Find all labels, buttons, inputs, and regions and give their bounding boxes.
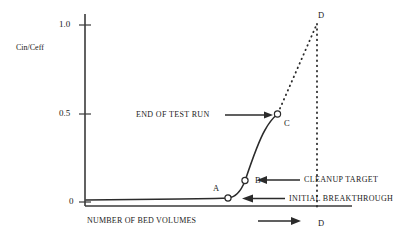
annotation-cleanup-target: CLEANUP TARGET: [304, 176, 378, 184]
y-tick-label-0_5: 0.5: [59, 109, 70, 118]
data-point-a-marker: [225, 195, 231, 201]
data-point-c-marker: [274, 111, 280, 117]
axis-label-d: D: [318, 219, 324, 228]
data-point-label-c: C: [284, 119, 290, 128]
annotation-end-of-test-run: END OF TEST RUN: [136, 111, 210, 119]
initial-breakthrough-arrow: [242, 194, 285, 202]
data-point-b-marker: [242, 177, 248, 183]
end-of-test-run-arrow: [225, 111, 273, 118]
breakthrough-curve-chart: Cin/Ceff 1.0 0.5 0 A B C D D END OF TEST…: [0, 0, 411, 238]
y-axis-title: Cin/Ceff: [16, 44, 44, 52]
data-point-label-b: B: [255, 176, 261, 185]
extrapolation-dotted-line: [278, 26, 316, 113]
x-axis-direction-arrow: [258, 217, 301, 225]
x-axis-title: NUMBER OF BED VOLUMES: [87, 217, 196, 225]
cleanup-target-arrow: [257, 176, 300, 184]
annotation-initial-breakthrough: INITIAL BREAKTHROUGH: [289, 195, 393, 203]
y-tick-label-0: 0: [69, 197, 74, 206]
data-point-label-d-top: D: [318, 11, 324, 20]
y-tick-label-1_0: 1.0: [59, 20, 70, 29]
breakthrough-curve-solid: [86, 115, 277, 201]
data-point-label-a: A: [213, 184, 219, 193]
